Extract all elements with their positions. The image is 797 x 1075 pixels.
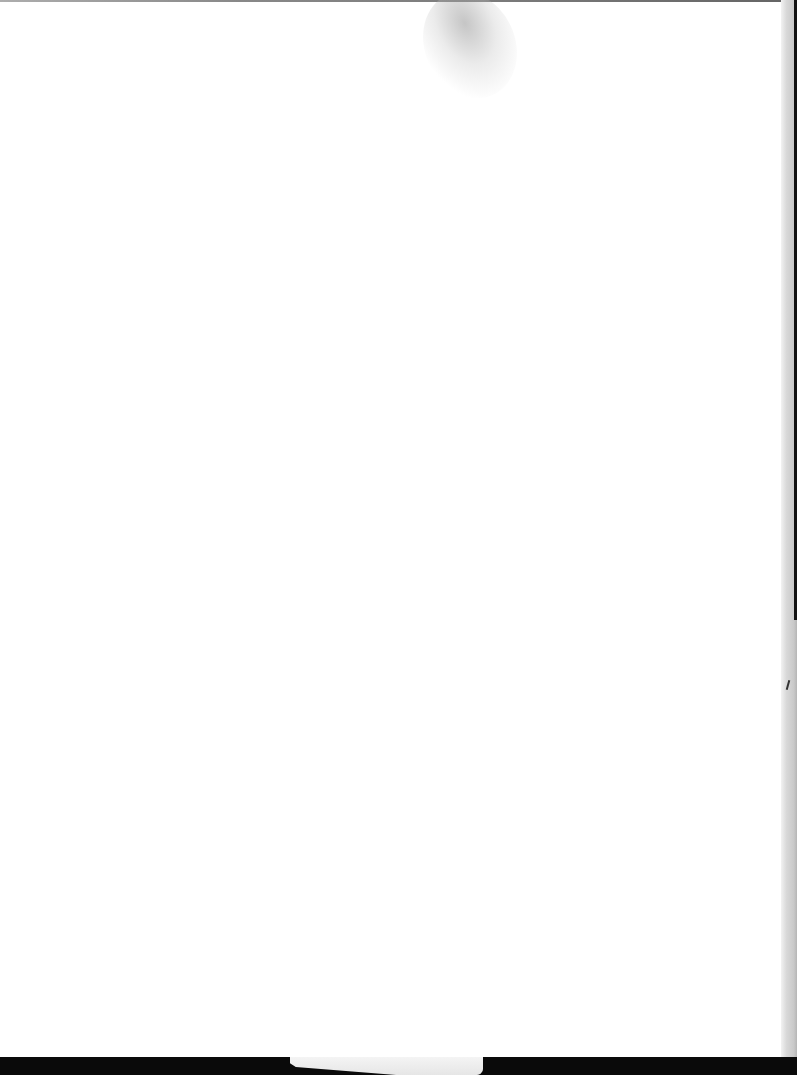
- scan-smudge: [406, 0, 534, 114]
- scan-top-edge: [0, 0, 797, 2]
- scanned-page: [0, 0, 797, 1075]
